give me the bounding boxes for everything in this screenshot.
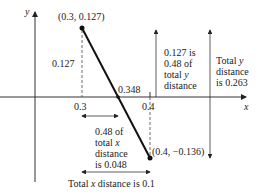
x-total-annotation: Total x distance is 0.1 bbox=[68, 178, 155, 189]
y-total-annotation: Total y distance is 0.263 bbox=[216, 55, 249, 88]
tick-x03: 0.3 bbox=[74, 101, 87, 112]
x-axis-label: x bbox=[244, 101, 248, 112]
y-axis-label: y bbox=[25, 6, 29, 17]
point-bottom-label: (0.4, −0.136) bbox=[152, 146, 204, 157]
intercept-label: 0.348 bbox=[118, 84, 141, 95]
segment-height-label: 0.127 bbox=[52, 58, 75, 69]
diagram-graphics bbox=[0, 0, 260, 196]
point-top-label: (0.3, 0.127) bbox=[58, 11, 105, 22]
tick-x04: 0.4 bbox=[142, 101, 155, 112]
x-part-annotation: 0.48 of total x distance is 0.048 bbox=[95, 126, 128, 170]
y-part-annotation: 0.127 is 0.48 of total y distance bbox=[164, 47, 197, 91]
point-top bbox=[80, 26, 85, 31]
